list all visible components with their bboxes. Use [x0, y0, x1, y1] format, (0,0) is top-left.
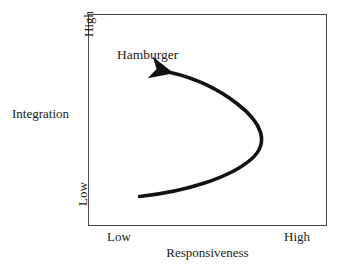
- y-axis-tick-low: Low: [76, 174, 90, 214]
- x-axis-tick-high: High: [284, 230, 310, 243]
- x-axis-title: Responsiveness: [88, 246, 327, 259]
- y-axis-title: Integration: [12, 107, 69, 120]
- strategy-chart-figure: Integration High Low Low High Responsive…: [0, 0, 343, 269]
- x-axis-tick-low: Low: [107, 230, 131, 243]
- series-annotation-hamburger: Hamburger: [117, 48, 178, 62]
- y-axis-tick-high: High: [82, 1, 96, 47]
- plot-area-frame: [88, 14, 327, 226]
